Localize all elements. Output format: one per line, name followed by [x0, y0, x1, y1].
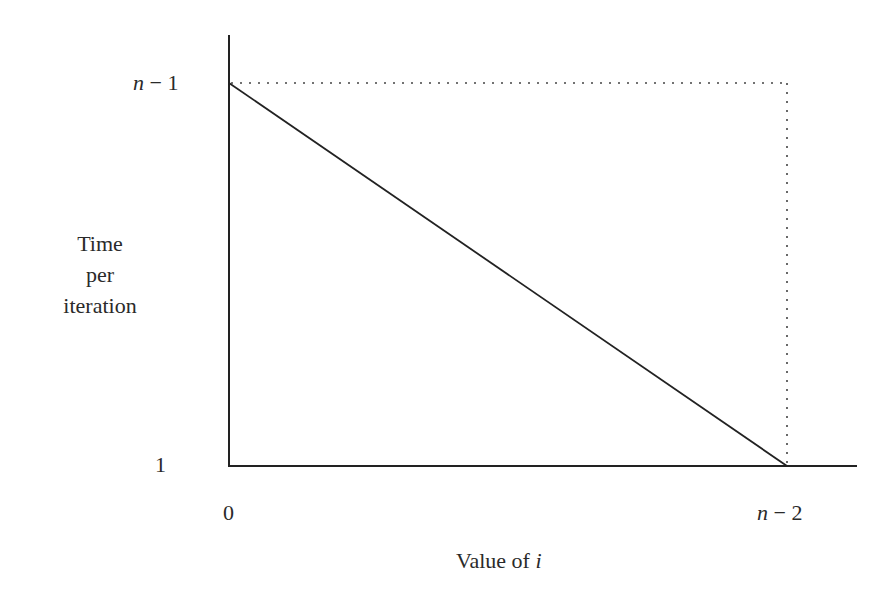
decreasing-line: [229, 83, 787, 466]
x-tick-left: 0: [223, 500, 234, 526]
x-tick-right-rest: − 2: [768, 500, 802, 525]
ylabel-line-2: per: [40, 259, 160, 290]
x-tick-right: n − 2: [757, 500, 802, 526]
x-axis-label-var: i: [535, 548, 541, 573]
y-axis-label: Time per iteration: [40, 228, 160, 321]
x-tick-right-var: n: [757, 500, 768, 525]
x-axis-label-text: Value of: [456, 548, 535, 573]
y-tick-top: n − 1: [133, 70, 178, 96]
y-tick-top-var: n: [133, 70, 144, 95]
x-axis-label: Value of i: [456, 548, 542, 574]
ylabel-line-3: iteration: [40, 290, 160, 321]
ylabel-line-1: Time: [40, 228, 160, 259]
y-tick-bottom: 1: [155, 452, 166, 478]
y-tick-top-rest: − 1: [144, 70, 178, 95]
